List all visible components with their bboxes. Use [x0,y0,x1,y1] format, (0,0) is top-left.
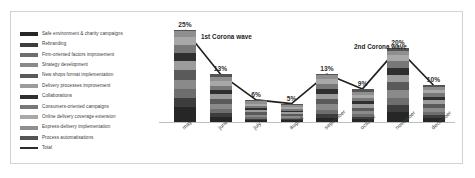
legend-item-label: Strategy development [42,63,88,68]
bar-group[interactable]: 13% [210,74,232,122]
bar-segment [174,89,196,98]
legend-item-label: Online delivery coverage extension [42,115,116,120]
bar-group[interactable]: 25% [174,30,196,122]
bar-segment [174,80,196,89]
legend-item[interactable]: Collaborations [20,91,152,101]
legend-item[interactable]: Consumers-oriented campaigns [20,102,152,112]
legend-item[interactable]: New shops format implementation [20,71,152,81]
legend-swatch [20,84,38,88]
legend-swatch [20,63,38,67]
bar-segment [174,70,196,80]
bar-stack [387,48,409,122]
legend-item-label: Consumers-oriented campaigns [42,105,109,110]
legend-swatch [20,126,38,130]
legend-swatch [20,105,38,109]
legend-swatch [20,74,38,78]
bar-segment [387,61,409,68]
bar-value-label: 6% [236,91,276,98]
bar-value-label: 10% [414,76,454,83]
legend-swatch [20,95,38,99]
legend-item[interactable]: Rebranding [20,39,152,49]
annotation-second-corona-wave: 2nd Corona wave [354,43,407,50]
legend-item[interactable]: Firm-oriented factors improvement [20,50,152,60]
bar-value-label: 5% [272,95,312,102]
bar-segment [387,90,409,98]
bar-stack [174,30,196,122]
bar-segment [174,98,196,108]
legend-item-label: Collaborations [42,94,72,99]
legend-swatch [20,43,38,47]
legend-item-label: Express-delivery implementation [42,125,110,130]
chart-plot-area: 25%13%6%5%13%9%20%10% 1st Corona wave 2n… [159,20,457,160]
bar-group[interactable]: 20% [387,48,409,122]
bar-segment [174,61,196,70]
bar-segment [387,105,409,112]
legend-item[interactable]: Strategy development [20,60,152,70]
chart-legend: Safe environment & charity campaignsRebr… [20,29,152,154]
legend-item[interactable]: Total [20,143,152,153]
legend-item[interactable]: Express-delivery implementation [20,123,152,133]
annotation-first-corona-wave: 1st Corona wave [201,33,252,40]
bar-value-label: 13% [307,65,347,72]
legend-swatch [20,147,38,149]
legend-item[interactable]: Process automatisations [20,133,152,143]
legend-item-label: Firm-oriented factors improvement [42,53,114,58]
bar-stack [245,100,267,122]
bar-value-label: 13% [201,65,241,72]
legend-item-label: Safe environment & charity campaigns [42,32,123,37]
legend-swatch [20,136,38,140]
legend-item-label: New shops format implementation [42,73,113,78]
legend-item[interactable]: Online delivery coverage extension [20,112,152,122]
bar-segment [387,98,409,105]
bar-segment [174,37,196,44]
chart-frame: Safe environment & charity campaignsRebr… [10,11,463,164]
bar-segment [174,107,196,122]
legend-item[interactable]: Safe environment & charity campaigns [20,29,152,39]
legend-item-label: Delivery processes improvement [42,84,110,89]
legend-item-label: Total [42,146,52,151]
legend-swatch [20,32,38,36]
bar-value-label: 9% [343,80,383,87]
legend-item[interactable]: Delivery processes improvement [20,81,152,91]
legend-swatch [20,115,38,119]
bar-group[interactable]: 6% [245,100,267,122]
bar-segment [387,82,409,90]
bar-segment [174,45,196,53]
bar-segment [387,68,409,75]
bar-segment [174,53,196,61]
bar-stack [210,74,232,122]
bar-segment [387,75,409,82]
legend-item-label: Process automatisations [42,136,93,141]
legend-item-label: Rebranding [42,42,66,47]
legend-swatch [20,53,38,57]
bar-value-label: 25% [165,21,205,28]
